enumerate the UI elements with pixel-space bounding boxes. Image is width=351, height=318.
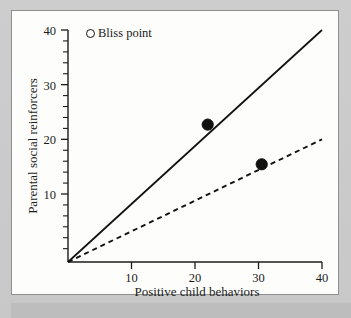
legend-open-circle-icon (86, 29, 95, 38)
legend-label-bliss-point: Bliss point (98, 26, 152, 41)
page-bottom-band (11, 303, 351, 318)
chart-panel (11, 10, 339, 295)
figure-root: 40 30 20 10 10 20 30 40 Positive child b… (0, 0, 351, 318)
chart-legend: Bliss point (86, 26, 152, 41)
